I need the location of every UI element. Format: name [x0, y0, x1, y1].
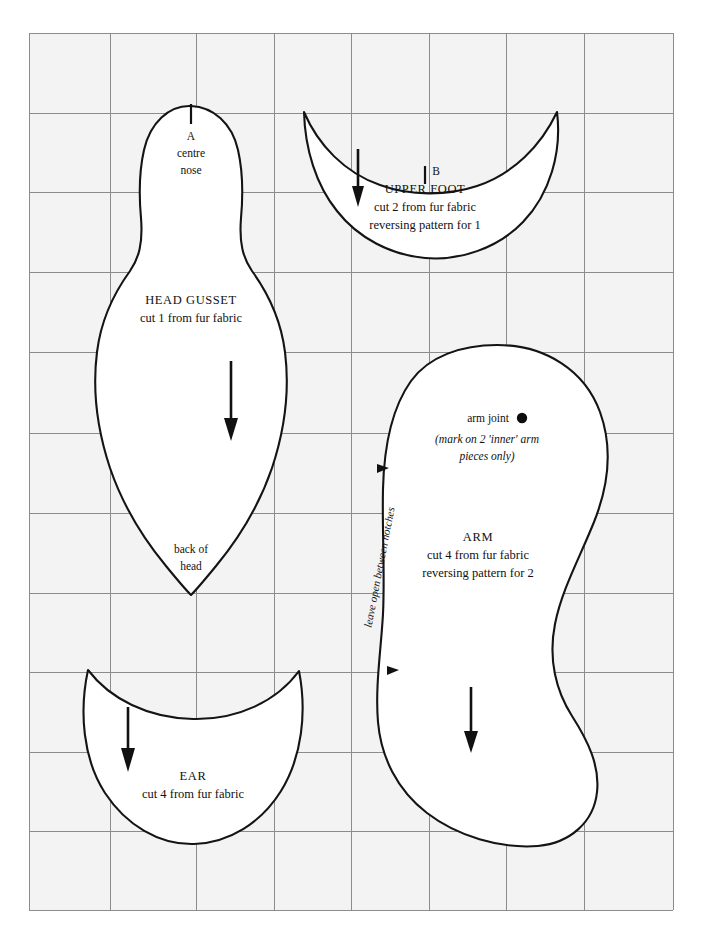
upper-foot-cut-instruction-line1: cut 2 from fur fabric: [374, 200, 476, 214]
arm-joint-label: arm joint: [467, 412, 510, 425]
arm-title: ARM: [463, 530, 493, 544]
upper-foot-cut-instruction-line2: reversing pattern for 1: [369, 218, 480, 232]
arm-joint-note-line1: (mark on 2 'inner' arm: [435, 433, 539, 446]
head-gusset-centre-label-line2: nose: [180, 164, 201, 176]
head-gusset-mark-letter: A: [187, 130, 196, 142]
head-gusset-centre-label-line1: centre: [177, 147, 205, 159]
arm-cut-instruction-line1: cut 4 from fur fabric: [427, 548, 529, 562]
pattern-sheet: A centre nose HEAD GUSSET cut 1 from fur…: [0, 0, 701, 941]
upper-foot-mark-letter: B: [432, 165, 440, 177]
arm-joint-note-line2: pieces only): [458, 450, 514, 463]
arm-joint-dot: [517, 413, 527, 423]
upper-foot-title: UPPER FOOT: [385, 182, 466, 196]
arm-cut-instruction-line2: reversing pattern for 2: [422, 566, 533, 580]
head-gusset-back-label-line1: back of: [174, 543, 208, 555]
ear-cut-instruction: cut 4 from fur fabric: [142, 787, 244, 801]
ear-title: EAR: [180, 769, 207, 783]
head-gusset-cut-instruction: cut 1 from fur fabric: [140, 311, 242, 325]
head-gusset-title: HEAD GUSSET: [145, 293, 237, 307]
head-gusset-back-label-line2: head: [180, 560, 202, 572]
